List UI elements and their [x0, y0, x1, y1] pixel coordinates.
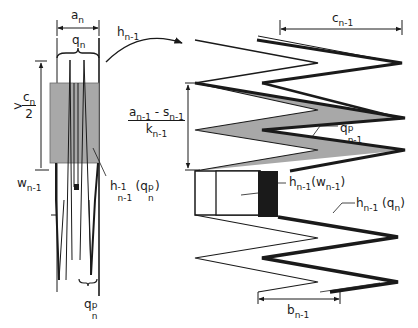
label-close: ) — [340, 175, 345, 189]
height-dimension — [185, 83, 200, 170]
c-n-half-fraction: cn 2 — [22, 91, 36, 120]
label-base: q — [72, 33, 80, 47]
fraction-denominator: 2 — [22, 106, 36, 120]
label-sub: n-1 — [348, 136, 363, 145]
fraction-numerator: an-1 - sn-1 — [128, 106, 185, 121]
label-base: b — [287, 303, 295, 317]
label-sub: n — [30, 97, 36, 107]
b-n-1-label: bn-1 — [287, 304, 309, 316]
label-arg: (q — [136, 179, 148, 193]
label-sub: n-1 — [27, 183, 42, 193]
w-n-1-label: wn-1 — [17, 177, 42, 189]
label-base: q — [340, 121, 348, 135]
label-base: q — [84, 297, 92, 311]
label-sub: n — [148, 194, 154, 203]
c-n-half-dimension — [35, 61, 49, 170]
label-sub: n-1 — [169, 112, 184, 122]
c-n-1-label: cn-1 — [332, 12, 353, 24]
label-base: h — [289, 175, 297, 189]
label-sup: p — [148, 183, 154, 192]
label-sub: n — [394, 203, 400, 213]
label-sub: n-1 — [364, 203, 379, 213]
label-sub: n-1 — [136, 112, 151, 122]
label-base: h — [117, 25, 125, 39]
h-n-1-arrow-label: hn-1 — [117, 26, 139, 38]
label-base: c — [23, 90, 30, 104]
label-close: ) — [155, 179, 160, 193]
label-base: h — [110, 179, 118, 193]
label-base: c — [332, 11, 339, 25]
label-minus: - — [151, 105, 163, 119]
q-n-p-brace — [79, 279, 97, 286]
label-sup: p — [348, 124, 354, 133]
fraction-denominator: kn-1 — [128, 121, 185, 135]
mapping-arrow — [106, 38, 182, 62]
right-panel — [185, 20, 405, 304]
label-sub: n — [92, 312, 98, 321]
q-n-label: qn — [72, 34, 85, 46]
h-q-label: hn-1 (qn) — [356, 197, 405, 209]
label-sub: n-1 — [297, 182, 312, 192]
label-arg: (w — [311, 175, 326, 189]
label-sub: n — [80, 40, 86, 50]
dark-block — [258, 171, 278, 217]
b-n-1-dimension — [258, 292, 340, 304]
label-sub: n — [78, 15, 84, 25]
q-n-1-p-label: qpn-1 — [340, 122, 366, 134]
label-base: h — [356, 196, 364, 210]
label-close: ) — [400, 196, 405, 210]
diagram-canvas — [0, 0, 418, 328]
inner-box — [216, 171, 260, 215]
label-sub: n-1 — [118, 194, 133, 203]
label-sup: p — [92, 301, 98, 310]
left-panel — [35, 20, 106, 296]
w-square — [74, 184, 79, 190]
h-inverse-label: h-1n-1(qpn) — [110, 180, 160, 192]
label-arg: (q — [378, 196, 394, 210]
h-w-label: hn-1(wn-1) — [289, 176, 345, 188]
label-base: w — [17, 176, 27, 190]
label-sup: -1 — [118, 183, 127, 192]
label-sub: n-1 — [326, 182, 341, 192]
height-fraction: an-1 - sn-1 kn-1 — [128, 106, 185, 135]
label-sub: n-1 — [125, 32, 140, 42]
label-sub: n-1 — [339, 18, 354, 28]
q-n-p-label: qpn — [84, 298, 100, 310]
label-sub: n-1 — [153, 129, 168, 139]
a-n-label: an — [71, 9, 84, 21]
fraction-numerator: cn — [22, 91, 36, 106]
label-base: k — [146, 122, 153, 136]
label-sub: n-1 — [295, 310, 310, 320]
q-n-brace — [57, 48, 99, 58]
